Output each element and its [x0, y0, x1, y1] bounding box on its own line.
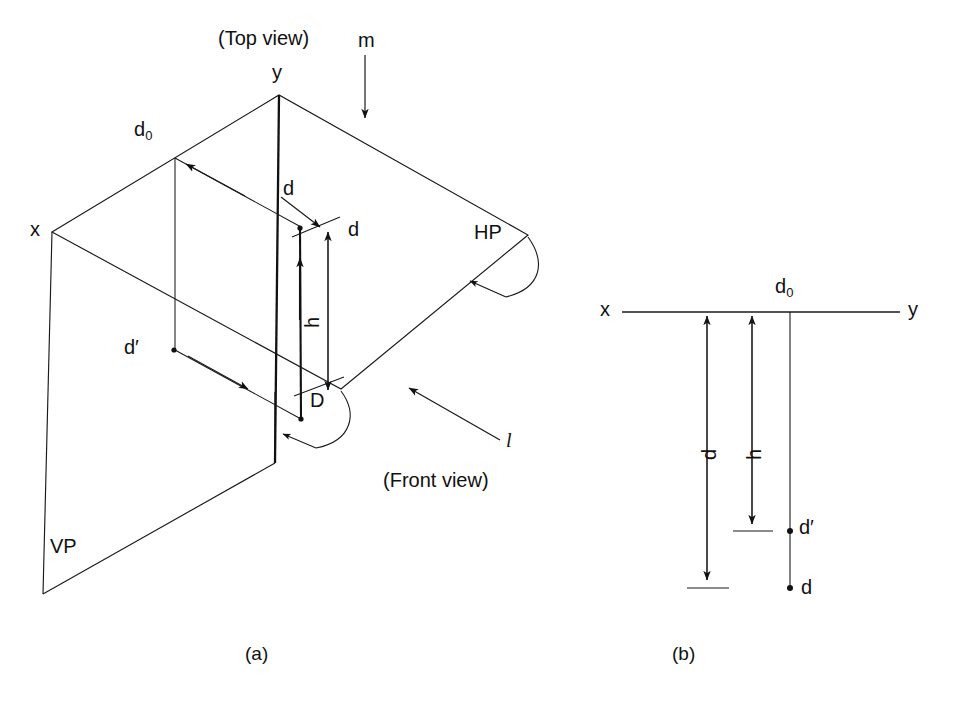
dimension-d-arrow-a: [281, 197, 320, 227]
vp-hp-intersection-edge: [275, 95, 279, 463]
caption-front-view: (Front view): [383, 470, 489, 490]
point-d-front-dot: [298, 416, 303, 421]
caption-top-view: (Top view): [218, 28, 309, 48]
point-d-prime-dot: [171, 347, 176, 352]
caption-b: (b): [672, 644, 695, 663]
label-y-pictorial: y: [272, 62, 282, 82]
label-h-pictorial: h: [302, 317, 322, 328]
label-h-ortho: h: [744, 449, 764, 460]
label-d0-base-ortho: d: [775, 275, 786, 297]
technical-drawing-svg: [0, 0, 960, 715]
caption-a: (a): [245, 644, 268, 663]
label-d-ortho: d: [699, 449, 719, 460]
label-d0-pictorial: d0: [134, 119, 152, 142]
label-HP: HP: [474, 222, 502, 242]
vp-plane: [43, 232, 275, 594]
label-d-top-pictorial: d: [283, 178, 294, 198]
label-D-pictorial: D: [310, 390, 324, 410]
point-d-dot-b: [787, 585, 793, 591]
label-VP: VP: [50, 536, 77, 556]
label-d-prime-pictorial: d′: [124, 337, 139, 357]
dimension-h-b: [733, 316, 773, 531]
hp-rectangle-arrows: [175, 164, 248, 389]
label-y-ortho: y: [908, 299, 918, 319]
hp-rotation-arc: [470, 237, 538, 297]
label-d-prime-ortho: d′: [799, 517, 814, 537]
label-x-pictorial: x: [30, 219, 40, 239]
arrow-l: [409, 388, 500, 440]
label-d0-subscript: 0: [145, 128, 152, 143]
figure-canvas: (Top view) m y x d0 d d d′ h D HP VP l (…: [0, 0, 960, 715]
label-d0-subscript-ortho: 0: [786, 285, 793, 300]
label-m: m: [358, 30, 375, 50]
point-d-top-dot: [297, 225, 302, 230]
point-d-prime-dot-b: [787, 528, 793, 534]
label-d-right-pictorial: d: [348, 219, 359, 239]
label-x-ortho: x: [600, 299, 610, 319]
label-d0-ortho: d0: [775, 276, 793, 299]
label-d0-base: d: [134, 118, 145, 140]
label-d-point-ortho: d: [801, 577, 812, 597]
label-l: l: [506, 430, 512, 450]
